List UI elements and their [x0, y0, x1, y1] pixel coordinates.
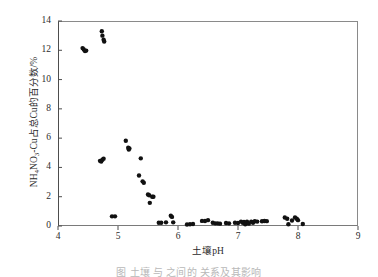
- x-tick-label: 8: [288, 232, 308, 242]
- x-tick-label: 5: [108, 232, 128, 242]
- y-axis-title-mid: NO: [29, 156, 39, 170]
- plot-area: [58, 21, 358, 226]
- y-axis-title-prefix: NH: [29, 173, 39, 187]
- y-axis-title-sub-4: 4: [33, 170, 41, 174]
- x-tick-label: 4: [48, 232, 68, 242]
- x-tick-label: 9: [348, 232, 368, 242]
- figure-container: 456789 02468101214 土壤pH NH4NO3-Cu占总Cu的百分…: [0, 0, 378, 277]
- y-axis-title-suffix: -Cu占总Cu的百分数/%: [29, 57, 39, 153]
- y-tick-label: 14: [29, 16, 51, 26]
- y-axis-title: NH4NO3-Cu占总Cu的百分数/%: [26, 27, 40, 217]
- figure-caption: 图 土壤 与 之间的 关系及其影响: [0, 264, 378, 277]
- x-tick-label: 7: [228, 232, 248, 242]
- y-axis-title-sub-3: 3: [33, 153, 41, 157]
- y-tick-label: 0: [29, 221, 51, 231]
- x-axis-ticks: [58, 226, 358, 230]
- x-tick-label: 6: [168, 232, 188, 242]
- x-axis-title: 土壤pH: [58, 243, 358, 257]
